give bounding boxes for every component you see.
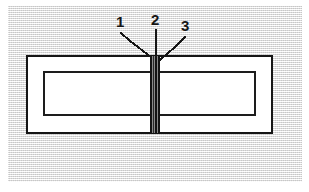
center-weld-seam bbox=[150, 56, 160, 133]
weld-seam-band-1 bbox=[150, 56, 152, 133]
callout-label-3: 3 bbox=[181, 18, 189, 33]
welded-joint-drawing bbox=[0, 0, 309, 192]
leader-line-1 bbox=[121, 33, 151, 57]
weld-seam-band-2 bbox=[153, 56, 154, 133]
figure-root: 1 2 3 bbox=[0, 0, 309, 192]
inner-rectangle bbox=[44, 72, 255, 115]
weld-seam-band-4 bbox=[158, 56, 160, 133]
callout-label-1: 1 bbox=[116, 14, 124, 29]
callout-label-2: 2 bbox=[151, 12, 159, 27]
weld-seam-band-3 bbox=[155, 56, 157, 133]
